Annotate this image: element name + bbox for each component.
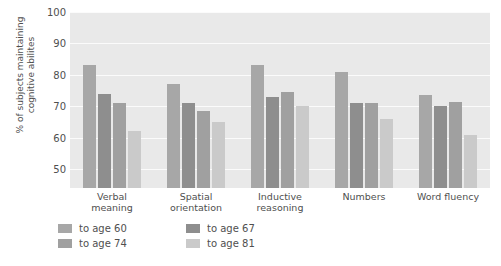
bar[interactable]: [182, 103, 195, 188]
bar[interactable]: [98, 94, 111, 188]
legend-label: to age 60: [79, 223, 127, 234]
category-label-line: orientation: [154, 202, 238, 213]
bar[interactable]: [266, 97, 279, 188]
y-axis-label-line-1: % of subjects maintaining: [15, 0, 26, 163]
category-label-line: Word fluency: [406, 191, 490, 202]
legend-swatch: [186, 224, 200, 233]
legend-swatch: [186, 239, 200, 248]
category-label-line: reasoning: [238, 202, 322, 213]
bar[interactable]: [128, 131, 141, 188]
bar[interactable]: [464, 135, 477, 188]
bar[interactable]: [335, 72, 348, 188]
y-axis-tick-labels: 1009080706050: [36, 0, 66, 195]
y-axis-label: % of subjects maintaining cognitive abil…: [15, 0, 37, 163]
y-axis-tick-label: 100: [36, 7, 66, 18]
bar-chart-figure: % of subjects maintaining cognitive abil…: [0, 0, 501, 266]
y-axis-tick-label: 60: [36, 132, 66, 143]
x-axis-category-label: Numbers: [322, 191, 406, 213]
legend: to age 60to age 67to age 74to age 81: [58, 223, 298, 249]
y-axis-tick-label: 50: [36, 164, 66, 175]
x-axis-category-label: Inductivereasoning: [238, 191, 322, 213]
legend-swatch: [58, 239, 72, 248]
x-axis-category-labels: VerbalmeaningSpatialorientationInductive…: [70, 191, 490, 213]
bar[interactable]: [296, 106, 309, 188]
bar[interactable]: [419, 95, 432, 188]
bar[interactable]: [281, 92, 294, 188]
legend-item[interactable]: to age 67: [186, 223, 314, 234]
x-axis-category-label: Spatialorientation: [154, 191, 238, 213]
category-label-line: Inductive: [238, 191, 322, 202]
bar[interactable]: [365, 103, 378, 188]
category-label-line: Verbal: [70, 191, 154, 202]
bar[interactable]: [350, 103, 363, 188]
y-axis-tick-label: 70: [36, 101, 66, 112]
category-label-line: meaning: [70, 202, 154, 213]
bar[interactable]: [113, 103, 126, 188]
bar-group: [322, 12, 406, 188]
category-label-line: Numbers: [322, 191, 406, 202]
bar-group: [238, 12, 322, 188]
bar-group: [406, 12, 490, 188]
x-axis-category-label: Word fluency: [406, 191, 490, 213]
legend-label: to age 81: [207, 238, 255, 249]
legend-item[interactable]: to age 74: [58, 238, 186, 249]
legend-item[interactable]: to age 60: [58, 223, 186, 234]
bar-groups: [70, 12, 490, 188]
y-axis-tick-label: 90: [36, 38, 66, 49]
x-axis-category-label: Verbalmeaning: [70, 191, 154, 213]
bar-group: [154, 12, 238, 188]
bar[interactable]: [380, 119, 393, 188]
legend-label: to age 67: [207, 223, 255, 234]
bar-group: [70, 12, 154, 188]
category-label-line: Spatial: [154, 191, 238, 202]
bar[interactable]: [434, 106, 447, 188]
plot-area: [70, 12, 490, 188]
legend-label: to age 74: [79, 238, 127, 249]
bar[interactable]: [197, 111, 210, 188]
bar[interactable]: [449, 102, 462, 188]
legend-item[interactable]: to age 81: [186, 238, 314, 249]
y-axis-tick-label: 80: [36, 69, 66, 80]
bar[interactable]: [167, 84, 180, 188]
legend-swatch: [58, 224, 72, 233]
bar[interactable]: [251, 65, 264, 188]
bar[interactable]: [212, 122, 225, 188]
bar[interactable]: [83, 65, 96, 188]
